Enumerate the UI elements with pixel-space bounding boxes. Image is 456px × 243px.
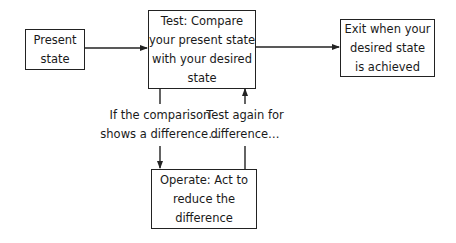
present-state-box: Present state	[25, 29, 85, 70]
edge-label-right-line-1: Test again for	[205, 106, 285, 125]
operate-line-2: reduce the	[160, 190, 248, 209]
exit-line-1: Exit when your	[344, 20, 430, 39]
exit-box: Exit when your desired state is achieved	[340, 19, 435, 77]
operate-line-3: difference	[160, 209, 248, 228]
test-line-2: your present state	[149, 31, 255, 50]
edge-label-right-line-2: difference…	[205, 125, 285, 144]
operate-line-1: Operate: Act to	[160, 171, 248, 190]
test-line-4: state	[149, 69, 255, 88]
exit-line-3: is achieved	[344, 58, 430, 77]
present-state-line-1: Present	[33, 31, 76, 50]
present-state-line-2: state	[33, 50, 76, 69]
test-line-1: Test: Compare	[149, 12, 255, 31]
test-line-3: with your desired	[149, 50, 255, 69]
test-box: Test: Compare your present state with yo…	[148, 10, 256, 89]
edge-label-test-again: Test again for difference…	[205, 106, 285, 144]
operate-box: Operate: Act to reduce the difference	[151, 169, 257, 229]
exit-line-2: desired state	[344, 39, 430, 58]
